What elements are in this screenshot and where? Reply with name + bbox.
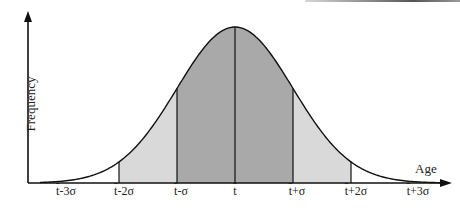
band-dark <box>177 27 235 183</box>
tick-offset: -3σ <box>59 184 75 198</box>
y-axis-arrow-icon <box>24 11 32 22</box>
tick-offset: +3σ <box>410 184 429 198</box>
x-axis-label: Age <box>415 161 437 177</box>
tick-plus-1-sigma: t+σ <box>289 184 306 199</box>
tick-plus-2-sigma: t+2σ <box>345 184 368 199</box>
tick-offset: +2σ <box>348 184 367 198</box>
tick-minus-2-sigma: t-2σ <box>114 184 134 199</box>
tick-mean: t <box>233 184 236 199</box>
tick-minus-3-sigma: t-3σ <box>56 184 76 199</box>
tick-mean-symbol: t <box>233 184 236 198</box>
y-axis-label: Frequency <box>23 77 39 132</box>
tick-plus-3-sigma: t+3σ <box>407 184 430 199</box>
tick-offset: -2σ <box>117 184 133 198</box>
tick-offset: -σ <box>177 184 187 198</box>
tick-offset: +σ <box>292 184 305 198</box>
tick-minus-1-sigma: t-σ <box>174 184 188 199</box>
band-dark <box>235 27 293 183</box>
x-axis-arrow-icon <box>440 179 452 187</box>
